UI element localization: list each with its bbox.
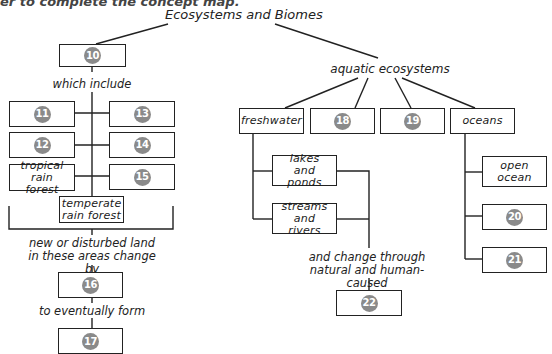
number-badge: 18 <box>334 113 351 130</box>
box-text: lakes and ponds <box>279 153 330 189</box>
number-badge: 20 <box>506 209 523 226</box>
number-badge: 13 <box>134 106 151 123</box>
oceans-box: oceans <box>450 108 515 134</box>
concept-box-15[interactable]: 15 <box>109 164 175 190</box>
concept-box-19[interactable]: 19 <box>380 108 445 134</box>
concept-box-14[interactable]: 14 <box>109 132 175 158</box>
link-change-by: new or disturbed land in these areas cha… <box>22 237 162 276</box>
open-ocean-box: open ocean <box>482 156 547 187</box>
number-badge: 21 <box>506 252 523 269</box>
freshwater-box: freshwater <box>239 108 304 134</box>
number-badge: 17 <box>82 333 99 350</box>
lakes-and-ponds-box: lakes and ponds <box>272 155 337 186</box>
concept-box-21[interactable]: 21 <box>482 247 547 273</box>
number-badge: 11 <box>34 106 51 123</box>
link-change-through: and change through natural and human-cau… <box>292 251 442 290</box>
number-badge: 12 <box>34 137 51 154</box>
box-text: oceans <box>462 115 502 127</box>
aquatic-ecosystems-label: aquatic ecosystems <box>330 63 450 76</box>
number-badge: 10 <box>84 47 101 64</box>
box-text: tropical rain forest <box>14 160 70 196</box>
number-badge: 22 <box>361 295 378 312</box>
box-text: open ocean <box>491 160 538 184</box>
number-badge: 19 <box>404 113 421 130</box>
temperate-rain-forest-box: temperate rain forest <box>59 196 124 223</box>
tropical-rain-forest-box: tropical rain forest <box>9 164 75 191</box>
concept-box-18[interactable]: 18 <box>310 108 375 134</box>
number-badge: 14 <box>134 137 151 154</box>
box-text: temperate rain forest <box>62 198 122 222</box>
concept-box-22[interactable]: 22 <box>336 290 402 316</box>
concept-box-10[interactable]: 10 <box>59 44 126 67</box>
concept-box-13[interactable]: 13 <box>109 101 175 127</box>
link-which-include: which include <box>52 78 132 91</box>
link-eventually-form: to eventually form <box>37 305 147 318</box>
concept-box-16[interactable]: 16 <box>58 272 123 298</box>
concept-box-20[interactable]: 20 <box>482 204 547 230</box>
number-badge: 15 <box>134 169 151 186</box>
number-badge: 16 <box>82 277 99 294</box>
title: Ecosystems and Biomes <box>165 8 315 21</box>
concept-box-17[interactable]: 17 <box>58 328 123 354</box>
concept-box-11[interactable]: 11 <box>9 101 75 127</box>
box-text: freshwater <box>241 115 302 127</box>
streams-and-rivers-box: streams and rivers <box>272 203 337 234</box>
concept-box-12[interactable]: 12 <box>9 132 75 158</box>
box-text: streams and rivers <box>279 201 330 237</box>
